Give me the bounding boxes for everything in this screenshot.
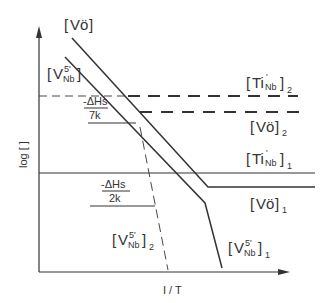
y-axis-label: log [ ] (17, 141, 29, 168)
svg-text:]: ] (142, 231, 146, 248)
svg-text:[: [ (246, 150, 251, 167)
svg-text:ö: ö (80, 16, 88, 33)
label-vo: [ V ö ] (64, 16, 93, 33)
slope-7k-numerator: -ΔHs (83, 95, 108, 107)
label-vo2: [ V ö ] 2 (250, 118, 287, 138)
y-axis-arrow-icon (36, 26, 42, 38)
svg-text:V: V (118, 231, 128, 248)
svg-text:[: [ (250, 195, 255, 212)
svg-text:Ti: Ti (252, 74, 264, 91)
svg-text:Ti: Ti (252, 150, 264, 167)
svg-text:2: 2 (282, 128, 287, 138)
svg-text:ö: ö (266, 118, 274, 135)
svg-text:': ' (266, 72, 268, 82)
svg-text:[: [ (47, 65, 52, 82)
slope-2k-denominator: 2k (109, 192, 121, 204)
svg-text:': ' (266, 148, 268, 158)
svg-text:1: 1 (265, 250, 270, 260)
svg-text:ö: ö (266, 195, 274, 212)
svg-text:Nb: Nb (63, 74, 75, 84)
svg-text:]: ] (89, 16, 93, 33)
svg-text:V: V (53, 65, 63, 82)
svg-text:2: 2 (287, 85, 292, 95)
x-axis-label: I / T (163, 284, 182, 296)
svg-text:1: 1 (287, 161, 292, 171)
svg-text:Nb: Nb (244, 248, 256, 258)
svg-text:]: ] (77, 65, 81, 82)
svg-text:Nb: Nb (265, 82, 277, 92)
svg-text:]: ] (275, 195, 279, 212)
slope-2k-numerator: -ΔHs (101, 178, 126, 190)
svg-text:5': 5' (129, 230, 136, 240)
defect-concentration-diagram: [ V ö ] [ V 5' Nb ] [ Ti ' Nb ] 2 [ V ö … (0, 0, 326, 303)
svg-text:[: [ (112, 231, 117, 248)
svg-text:1: 1 (282, 205, 287, 215)
svg-text:]: ] (280, 74, 284, 91)
x-axis-arrow-icon (278, 269, 290, 275)
svg-text:Nb: Nb (265, 158, 277, 168)
slope-7k-denominator: 7k (89, 109, 101, 121)
svg-text:[: [ (250, 118, 255, 135)
svg-text:V: V (70, 16, 80, 33)
svg-text:Nb: Nb (128, 240, 140, 250)
svg-text:5': 5' (245, 238, 252, 248)
svg-text:]: ] (258, 239, 262, 256)
label-vo1: [ V ö ] 1 (250, 195, 287, 215)
svg-text:5': 5' (64, 64, 71, 74)
label-vnb5: [ V 5' Nb ] (47, 64, 81, 84)
svg-text:V: V (234, 239, 244, 256)
svg-text:]: ] (275, 118, 279, 135)
svg-text:[: [ (228, 239, 233, 256)
svg-text:2: 2 (149, 242, 154, 252)
label-vnb5-2: [ V 5' Nb ] 2 (112, 230, 154, 252)
label-vnb5-1: [ V 5' Nb ] 1 (228, 238, 270, 260)
svg-text:]: ] (280, 150, 284, 167)
svg-text:[: [ (64, 16, 69, 33)
svg-text:[: [ (246, 74, 251, 91)
label-tinb2: [ Ti ' Nb ] 2 (246, 72, 292, 95)
label-tinb1: [ Ti ' Nb ] 1 (246, 148, 292, 171)
svg-text:V: V (256, 195, 266, 212)
svg-text:V: V (256, 118, 266, 135)
